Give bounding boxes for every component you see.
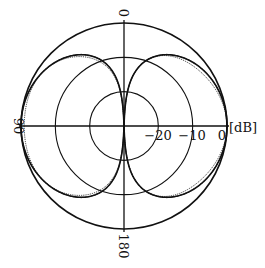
polar-plot: 0 90 180 −20 −10 0 [dB] <box>0 0 265 268</box>
radial-tick-label-0: 0 <box>218 128 226 143</box>
radial-tick-label-10: −10 <box>178 128 205 143</box>
angle-label-90: 90 <box>11 118 26 135</box>
radial-unit-label: [dB] <box>229 120 257 135</box>
radial-tick-label-20: −20 <box>144 128 171 143</box>
polar-labels: 0 90 180 −20 −10 0 [dB] <box>11 9 257 259</box>
angle-label-0: 0 <box>116 9 131 17</box>
angle-label-180: 180 <box>116 234 131 259</box>
